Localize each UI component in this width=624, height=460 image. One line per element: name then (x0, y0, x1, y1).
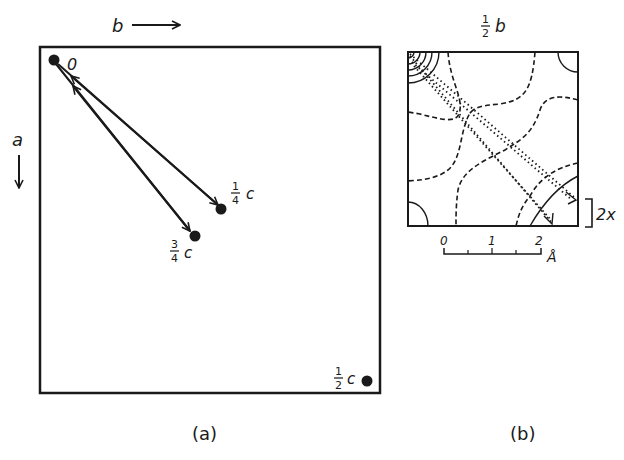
2x-label: 2x (596, 205, 616, 224)
svg-text:1: 1 (488, 234, 496, 248)
caption-b: (b) (510, 423, 535, 444)
svg-text:1: 1 (232, 180, 239, 193)
origin-peak-contours (408, 52, 439, 83)
half-c-point (362, 376, 373, 387)
three-quarter-c-label: 3 4 c (170, 238, 193, 265)
svg-text:c: c (246, 185, 255, 203)
projection-box (408, 52, 578, 226)
svg-text:2: 2 (335, 379, 342, 392)
svg-text:b: b (495, 16, 506, 36)
svg-text:0: 0 (440, 234, 448, 248)
three-quarter-c-point (190, 231, 201, 242)
panel-b: 1 2 b (408, 13, 616, 444)
arrowhead-icon (566, 192, 576, 204)
unit-cell-box (40, 47, 380, 393)
svg-text:c: c (184, 244, 193, 262)
angstrom-unit: Å (546, 249, 557, 265)
vector-three-quarter-c-return (73, 86, 190, 231)
svg-text:2: 2 (482, 27, 489, 40)
caption-a: (a) (192, 423, 217, 444)
vector-quarter-c-return (71, 76, 218, 205)
svg-text:4: 4 (171, 252, 178, 265)
2x-bracket (585, 199, 592, 227)
a-axis-label: a (12, 129, 23, 150)
svg-text:4: 4 (232, 194, 239, 207)
svg-text:3: 3 (171, 238, 178, 251)
panel-a: b a 0 1 4 c 3 4 c (12, 15, 380, 444)
angstrom-scale-bar: 0 1 2 Å (440, 234, 557, 265)
quarter-c-point (216, 204, 227, 215)
origin-label: 0 (67, 55, 77, 74)
svg-text:1: 1 (335, 365, 342, 378)
origin-point (49, 55, 60, 66)
svg-text:1: 1 (482, 13, 489, 26)
svg-text:2: 2 (535, 234, 543, 248)
svg-text:c: c (347, 370, 356, 388)
diffraction-diagram: b a 0 1 4 c 3 4 c (0, 0, 624, 460)
bottom-left-contour (408, 202, 428, 226)
top-right-contour (558, 52, 578, 72)
quarter-c-label: 1 4 c (231, 180, 255, 207)
half-c-label: 1 2 c (334, 365, 356, 392)
bottom-right-contour (530, 176, 578, 226)
zero-contours-dashed (408, 52, 578, 226)
half-b-label: 1 2 b (481, 13, 506, 40)
b-axis-label: b (112, 15, 123, 36)
